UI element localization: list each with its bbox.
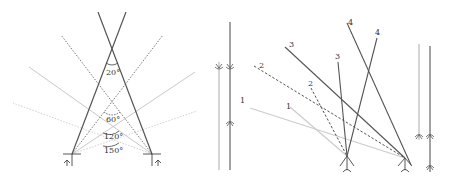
ray-150-right <box>13 103 152 154</box>
ray-120-left <box>72 72 195 154</box>
receiver-icon-right-a <box>340 156 354 172</box>
ray-2-a <box>254 66 405 158</box>
ray-3-a <box>285 47 405 158</box>
angle-label-60: 60° <box>106 115 120 124</box>
left-panel: 20° 60° 120° 150° <box>13 12 197 166</box>
ray-120-right <box>29 67 152 154</box>
ray-label-1-b: 1 <box>286 102 291 111</box>
ray-label-2-a: 2 <box>259 61 264 70</box>
ray-1-a <box>250 108 405 158</box>
right-panel: 1 1 2 2 3 3 4 4 <box>240 18 434 172</box>
receiver-icon-right-b <box>398 158 412 172</box>
receiver-icon-right <box>143 154 161 166</box>
middle-panel <box>215 22 234 170</box>
diagram-canvas: 20° 60° 120° 150° <box>0 0 449 180</box>
ray-1-b <box>290 107 347 156</box>
ray-label-3-b: 3 <box>335 52 340 61</box>
ray-label-4-b: 4 <box>375 28 380 37</box>
receiver-icon-left <box>63 154 81 166</box>
angle-label-20: 20° <box>106 68 120 77</box>
ray-label-2-b: 2 <box>308 79 313 88</box>
ray-label-4-a: 4 <box>348 18 353 27</box>
angle-label-120: 120° <box>104 132 123 141</box>
ray-label-1-a: 1 <box>240 96 245 105</box>
ray-4-a <box>347 23 411 165</box>
angle-arc-20 <box>106 63 118 65</box>
ray-label-3-a: 3 <box>289 40 294 49</box>
angle-label-150: 150° <box>104 146 123 155</box>
